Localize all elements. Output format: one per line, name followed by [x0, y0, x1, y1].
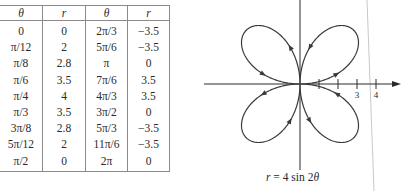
tick-label: 4	[374, 90, 379, 100]
direction-arrow-icon	[259, 90, 267, 97]
x-axis-arrow-icon	[392, 81, 401, 87]
direction-arrow-icon	[333, 70, 341, 77]
direction-arrow-icon	[259, 70, 267, 77]
graph-caption: r = 4 sin 2θ	[266, 171, 319, 183]
direction-arrow-icon	[286, 117, 293, 125]
tick-label: 3	[355, 90, 360, 100]
direction-arrow-icon	[306, 117, 313, 125]
direction-arrow-icon	[286, 43, 293, 51]
direction-arrow-icon	[333, 90, 341, 97]
direction-arrow-icon	[306, 43, 313, 51]
polar-graph: 34	[0, 0, 404, 191]
